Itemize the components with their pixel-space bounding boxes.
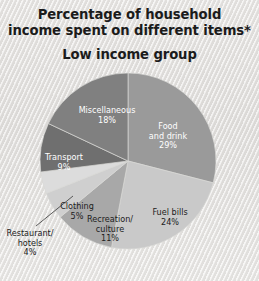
- slice-name: Restaurant/: [6, 228, 53, 238]
- slice-name: Miscellaneous: [79, 105, 136, 115]
- slice-name: Food: [158, 121, 177, 131]
- slice-name: hotels: [18, 238, 43, 248]
- slice-value: 9%: [58, 162, 71, 172]
- slice-value: 11%: [101, 233, 119, 243]
- slice-name: Transport: [44, 152, 83, 162]
- slice-name: culture: [96, 224, 124, 234]
- slice-value: 18%: [98, 115, 116, 125]
- pie-chart: Foodand drink29%Fuel bills24%Recreation/…: [0, 0, 259, 281]
- slice-name: Fuel bills: [152, 207, 187, 217]
- slice-name: Recreation/: [87, 214, 133, 224]
- slice-label: Restaurant/hotels4%: [6, 228, 53, 257]
- slice-value: 29%: [159, 140, 177, 150]
- chart-canvas: Percentage of household income spent on …: [0, 0, 259, 281]
- slice-value: 5%: [71, 211, 84, 221]
- slice-name: Clothing: [60, 201, 94, 211]
- slice-value: 4%: [24, 247, 37, 257]
- slice-name: and drink: [149, 131, 188, 141]
- slice-value: 24%: [161, 217, 179, 227]
